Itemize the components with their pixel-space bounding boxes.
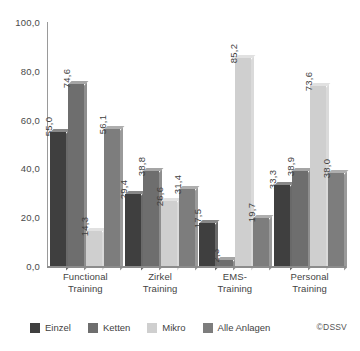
plot-area: 55,074,614,356,129,438,826,631,417,52,38… xyxy=(47,22,346,267)
bar-slot: 17,5 xyxy=(199,22,215,266)
bar-slot: 19,7 xyxy=(253,22,269,266)
y-axis-tick-label: 0,0 xyxy=(26,261,40,272)
bar-value-label: 38,8 xyxy=(141,157,151,176)
bar-einzel[interactable]: 55,0 xyxy=(50,132,66,266)
category-label-line: Training xyxy=(272,283,347,295)
y-axis-labels: 0,020,040,060,080,0100,0 xyxy=(0,22,45,267)
legend-label: Mikro xyxy=(162,322,185,333)
bar-ketten[interactable]: 38,8 xyxy=(143,171,159,266)
bar-value-label: 14,3 xyxy=(85,216,95,235)
y-axis-tick-label: 80,0 xyxy=(21,65,40,76)
category-label-line: Training xyxy=(48,283,123,295)
bar-group: 55,074,614,356,1 xyxy=(48,22,123,266)
x-axis-category-label: FunctionalTraining xyxy=(48,271,123,294)
bar-value-label: 73,6 xyxy=(308,72,318,91)
bar-value-label: 38,9 xyxy=(290,156,300,175)
bar-slot: 29,4 xyxy=(125,22,141,266)
x-axis-category-label: EMS-Training xyxy=(198,271,273,294)
bar-slot: 38,8 xyxy=(143,22,159,266)
legend-item-mikro[interactable]: Mikro xyxy=(147,322,185,333)
y-axis-tick-label: 60,0 xyxy=(21,114,40,125)
y-axis-tick-label: 20,0 xyxy=(21,212,40,223)
bar-value-label: 2,3 xyxy=(216,248,226,262)
bar-value-label: 55,0 xyxy=(49,117,59,136)
bar-value-label: 26,6 xyxy=(159,186,169,205)
bar-slot: 38,0 xyxy=(328,22,344,266)
bar-value-label: 33,3 xyxy=(272,170,282,189)
x-axis-category-labels: FunctionalTrainingZirkelTrainingEMS-Trai… xyxy=(48,271,347,294)
x-axis-category-label: ZirkelTraining xyxy=(123,271,198,294)
bar-alle-anlagen[interactable]: 38,0 xyxy=(328,173,344,266)
bar-slot: 14,3 xyxy=(86,22,102,266)
bar-ketten[interactable]: 38,9 xyxy=(292,171,308,266)
y-axis-tick-label: 40,0 xyxy=(21,163,40,174)
bar-einzel[interactable]: 29,4 xyxy=(125,194,141,266)
legend-label: Alle Anlagen xyxy=(218,322,271,333)
bar-slot: 73,6 xyxy=(310,22,326,266)
bar-slot: 26,6 xyxy=(161,22,177,266)
bar-groups: 55,074,614,356,129,438,826,631,417,52,38… xyxy=(48,22,346,266)
bar-value-label: 29,4 xyxy=(123,180,133,199)
bar-alle-anlagen[interactable]: 19,7 xyxy=(253,218,269,266)
x-axis-line xyxy=(47,266,346,268)
bar-value-label: 17,5 xyxy=(198,209,208,228)
bar-value-label: 31,4 xyxy=(177,175,187,194)
bar-value-label: 74,6 xyxy=(67,69,77,88)
legend-swatch-icon xyxy=(203,323,213,333)
legend-label: Ketten xyxy=(103,322,130,333)
legend-item-alle-anlagen[interactable]: Alle Anlagen xyxy=(203,322,271,333)
bar-mikro[interactable]: 26,6 xyxy=(161,201,177,266)
bar-slot: 85,2 xyxy=(235,22,251,266)
legend-item-ketten[interactable]: Ketten xyxy=(88,322,130,333)
bar-group: 17,52,385,219,7 xyxy=(197,22,272,266)
category-label-line: Personal xyxy=(272,271,347,283)
bar-slot: 55,0 xyxy=(50,22,66,266)
bar-ketten[interactable]: 74,6 xyxy=(68,84,84,266)
bar-slot: 33,3 xyxy=(274,22,290,266)
legend-label: Einzel xyxy=(45,322,71,333)
legend-swatch-icon xyxy=(30,323,40,333)
bar-slot: 38,9 xyxy=(292,22,308,266)
y-axis-tick-label: 100,0 xyxy=(15,17,40,28)
bar-value-label: 38,0 xyxy=(326,159,336,178)
category-label-line: Training xyxy=(198,283,273,295)
bar-slot: 31,4 xyxy=(179,22,195,266)
bar-side-face xyxy=(344,172,347,271)
bar-group: 33,338,973,638,0 xyxy=(272,22,347,266)
bar-value-label: 56,1 xyxy=(103,114,113,133)
category-label-line: Training xyxy=(123,283,198,295)
bar-einzel[interactable]: 33,3 xyxy=(274,185,290,266)
chart-legend: EinzelKettenMikroAlle Anlagen xyxy=(30,322,287,333)
bar-value-label: 85,2 xyxy=(234,43,244,62)
category-label-line: Zirkel xyxy=(123,271,198,283)
legend-swatch-icon xyxy=(147,323,157,333)
chart-credit: ©DSSV xyxy=(317,322,347,332)
bar-mikro[interactable]: 14,3 xyxy=(86,231,102,266)
bar-value-label: 19,7 xyxy=(252,203,262,222)
bar-chart: 0,020,040,060,080,0100,0 55,074,614,356,… xyxy=(0,0,360,351)
x-axis-category-label: PersonalTraining xyxy=(272,271,347,294)
legend-swatch-icon xyxy=(88,323,98,333)
bar-slot: 56,1 xyxy=(104,22,120,266)
legend-item-einzel[interactable]: Einzel xyxy=(30,322,71,333)
category-label-line: EMS- xyxy=(198,271,273,283)
bar-mikro[interactable]: 85,2 xyxy=(235,58,251,266)
bar-group: 29,438,826,631,4 xyxy=(123,22,198,266)
category-label-line: Functional xyxy=(48,271,123,283)
